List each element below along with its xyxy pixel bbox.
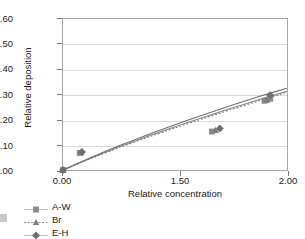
trend-line [63, 92, 287, 170]
y-tick-label: 0.20 [0, 115, 13, 125]
y-tick-label: 0.10 [0, 141, 13, 151]
x-tick-mark [180, 171, 181, 176]
legend-label: Br [52, 214, 62, 225]
legend-key-triangle-icon [24, 214, 48, 225]
series-a-w [60, 91, 287, 173]
plot-area [62, 18, 288, 171]
chart-figure: 0.60 0.50 0.40 0.30 0.20 0.10 0.00 0.00 … [0, 0, 305, 239]
x-tick-label: 0.00 [39, 176, 85, 186]
y-tick-label: 0.40 [0, 64, 13, 74]
legend-key-square-icon [24, 201, 48, 212]
y-axis-title: Relative deposition [22, 13, 33, 163]
legend-label: A-W [52, 201, 70, 212]
legend-label: E-H [52, 227, 68, 238]
legend-key-diamond-icon [24, 227, 48, 238]
legend-item-a-w: A-W [24, 200, 134, 213]
legend-item-e-h: E-H [24, 226, 134, 239]
x-tick-label: 2.00 [265, 176, 305, 186]
chart-legend: A-W Br E-H [24, 200, 134, 239]
y-tick-label: 0.60 [0, 14, 13, 24]
trend-line [63, 88, 287, 170]
scan-edge-artifact [0, 214, 7, 222]
x-tick-mark [288, 171, 289, 176]
y-tick-label: 0.30 [0, 90, 13, 100]
y-tick-label: 0.00 [0, 166, 13, 176]
data-series-layer [63, 19, 287, 170]
series-br [59, 92, 287, 173]
y-tick-label: 0.50 [0, 39, 13, 49]
x-axis-title: Relative concentration [62, 188, 288, 199]
x-tick-label: 1.50 [157, 176, 203, 186]
trend-line [63, 91, 287, 170]
legend-item-br: Br [24, 213, 134, 226]
